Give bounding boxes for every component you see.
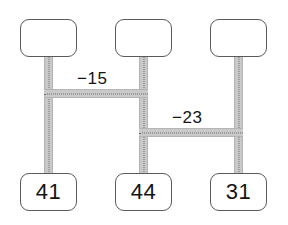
bottom-node-1-value: 41 [36,181,61,203]
edge-label-1: −15 [74,70,110,87]
edge-label-2: −23 [169,109,205,126]
top-node-3[interactable] [210,19,267,57]
bottom-node-2-value: 44 [131,181,156,203]
bottom-node-3-value: 31 [226,181,251,203]
top-node-1[interactable] [20,19,77,57]
bottom-node-2[interactable]: 44 [115,173,172,211]
diagram-canvas: 41 44 31 −15 −23 [0,0,288,225]
horizontal-connector-1-2 [44,89,148,98]
vertical-connector-column-3 [234,55,243,180]
top-node-2[interactable] [115,19,172,57]
bottom-node-1[interactable]: 41 [20,173,77,211]
horizontal-connector-2-3 [139,128,243,137]
vertical-connector-column-2 [139,55,148,180]
bottom-node-3[interactable]: 31 [210,173,267,211]
vertical-connector-column-1 [44,55,53,180]
